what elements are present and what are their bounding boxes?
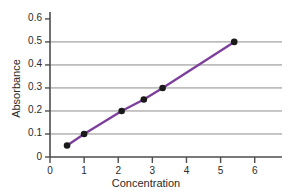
y-axis-title: Absorbance [11, 44, 22, 134]
data-series [64, 39, 238, 149]
x-axis-ticks [50, 157, 255, 163]
data-point [231, 39, 238, 46]
y-tick-label: 0 [12, 152, 42, 162]
x-tick-label: 0 [35, 166, 65, 176]
x-tick-label: 5 [206, 166, 236, 176]
data-point [81, 131, 88, 138]
x-tick-label: 2 [103, 166, 133, 176]
absorbance-vs-concentration-chart: 00.10.20.30.40.50.6 0123456 Absorbance C… [0, 0, 292, 194]
x-axis-title: Concentration [0, 178, 292, 189]
plot-area [0, 0, 292, 194]
data-point [64, 142, 71, 149]
x-tick-label: 3 [137, 166, 167, 176]
gridlines [50, 42, 282, 134]
data-point [118, 108, 125, 115]
x-tick-label: 6 [240, 166, 270, 176]
x-tick-label: 1 [69, 166, 99, 176]
series-line [67, 42, 234, 146]
data-point [141, 96, 148, 103]
x-tick-label: 4 [171, 166, 201, 176]
data-point [159, 85, 166, 92]
y-tick-label: 0.6 [12, 13, 42, 23]
